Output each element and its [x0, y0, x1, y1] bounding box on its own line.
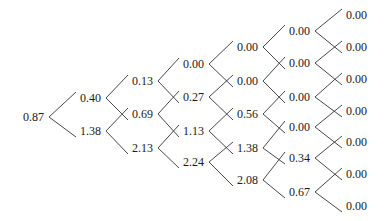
tree-branch	[315, 136, 342, 180]
tree-branch	[263, 121, 285, 164]
tree-branch	[315, 41, 342, 85]
tree-node: 0.00	[346, 8, 367, 22]
tree-branch	[158, 125, 179, 168]
tree-node: 0.00	[346, 40, 367, 54]
tree-branch	[315, 73, 342, 117]
tree-branch	[209, 41, 233, 87]
tree-node: 0.27	[183, 90, 204, 104]
tree-branch	[158, 58, 179, 103]
tree-node: 0.00	[289, 24, 310, 38]
tree-node: 0.34	[289, 151, 310, 165]
tree-node: 0.00	[346, 72, 367, 86]
tree-branch	[315, 168, 342, 212]
tree-branch	[315, 9, 342, 53]
tree-node: 0.00	[289, 120, 310, 134]
tree-branch	[315, 105, 342, 148]
tree-node: 2.08	[237, 173, 258, 187]
tree-node: 2.13	[132, 141, 153, 155]
tree-branch	[158, 91, 179, 137]
tree-branch	[106, 75, 128, 120]
tree-branches	[0, 0, 392, 221]
tree-node: 0.00	[289, 90, 310, 104]
tree-node: 1.38	[80, 124, 101, 138]
tree-node: 0.00	[237, 40, 258, 54]
binomial-tree-diagram: 0.870.401.380.130.692.130.000.271.132.24…	[0, 0, 392, 221]
tree-node: 0.00	[346, 104, 367, 118]
tree-branch	[209, 142, 233, 186]
tree-branch	[263, 152, 285, 198]
tree-node: 0.69	[132, 107, 153, 121]
tree-node: 0.00	[289, 56, 310, 70]
tree-branch	[263, 25, 285, 69]
tree-branch	[263, 91, 285, 133]
tree-node: 0.00	[346, 135, 367, 149]
tree-node: 0.87	[23, 110, 44, 124]
tree-node: 0.67	[289, 185, 310, 199]
tree-branch	[209, 75, 233, 120]
tree-branch	[263, 57, 285, 103]
tree-branch	[106, 108, 128, 154]
tree-node: 1.13	[183, 124, 204, 138]
tree-node: 0.00	[346, 167, 367, 181]
tree-branch	[49, 92, 76, 137]
tree-node: 0.56	[237, 107, 258, 121]
tree-node: 0.13	[132, 74, 153, 88]
tree-node: 0.00	[237, 74, 258, 88]
tree-node: 2.24	[183, 155, 204, 169]
tree-node: 0.00	[346, 199, 367, 213]
tree-node: 0.00	[183, 57, 204, 71]
tree-branch	[209, 108, 233, 154]
tree-node: 1.38	[237, 141, 258, 155]
tree-node: 0.40	[80, 91, 101, 105]
